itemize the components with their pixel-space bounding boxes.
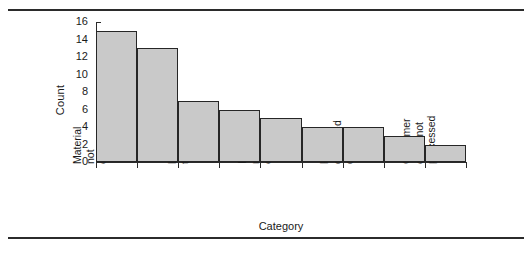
y-axis-title-text: Count [54, 70, 66, 130]
bar [260, 118, 301, 162]
y-tick-mark [96, 22, 101, 23]
bar [96, 31, 137, 162]
category-label-line: not [83, 127, 96, 164]
y-tick-label: 8 [82, 85, 88, 97]
bottom-rule [8, 237, 524, 239]
y-tick-label: 6 [82, 103, 88, 115]
bar [343, 127, 384, 162]
y-axis-title: Count [54, 10, 72, 70]
bar-chart-figure: Count 0246810121416 MaterialnotorderedLe… [0, 12, 532, 236]
category-label-line: Material [71, 127, 84, 164]
x-axis-title: Category [96, 220, 466, 232]
bar [178, 101, 219, 162]
bar [384, 136, 425, 162]
bar-series [96, 22, 466, 162]
y-tick-label: 12 [76, 50, 88, 62]
y-tick-label: 14 [76, 33, 88, 45]
bar [219, 110, 260, 163]
y-tick-label: 10 [76, 68, 88, 80]
bar [302, 127, 343, 162]
bar [137, 48, 178, 162]
top-rule [8, 9, 524, 11]
bar [425, 145, 466, 163]
y-tick-label: 16 [76, 15, 88, 27]
plot-area: 0246810121416 [96, 22, 466, 162]
